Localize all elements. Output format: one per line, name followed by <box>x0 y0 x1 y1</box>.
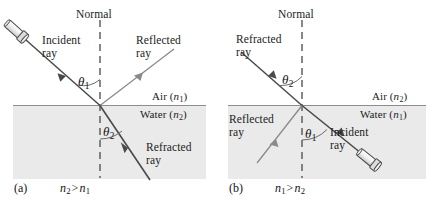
reflected-ray-label: Reflected ray <box>136 34 181 59</box>
theta-2-label: θ2 <box>103 124 114 141</box>
incident-ray-label: Incident ray <box>42 34 80 59</box>
refracted-ray-label: Refracted ray <box>146 141 192 166</box>
panel-a-caption-letter: (a) <box>14 181 27 196</box>
normal-label: Normal <box>76 8 112 21</box>
theta-1-label: θ1 <box>305 126 316 143</box>
flashlight-icon <box>2 18 29 44</box>
optics-refraction-figure: Normal Incident ray Reflected ray Refrac… <box>0 0 440 205</box>
theta-1-label: θ1 <box>78 74 89 91</box>
panel-b: Normal Refracted ray Reflected ray Incid… <box>220 0 440 205</box>
air-medium-label: Air (n2) <box>372 90 407 107</box>
normal-label: Normal <box>278 8 314 21</box>
water-medium-label: Water (n1) <box>360 108 407 125</box>
reflected-ray-label: Reflected ray <box>229 113 274 138</box>
theta-2-label: θ2 <box>282 72 293 89</box>
panel-a-caption-relation: n2>n1 <box>60 181 90 196</box>
water-medium-label: Water (n2) <box>140 108 187 125</box>
refracted-ray-label: Refracted ray <box>236 33 282 58</box>
incident-ray-label: Incident ray <box>330 126 368 151</box>
panel-a: Normal Incident ray Reflected ray Refrac… <box>0 0 220 205</box>
panel-b-caption-relation: n1>n2 <box>275 181 305 196</box>
reflected-ray-arrow <box>134 73 143 82</box>
air-medium-label: Air (n1) <box>152 90 187 107</box>
panel-b-caption-letter: (b) <box>229 181 243 196</box>
